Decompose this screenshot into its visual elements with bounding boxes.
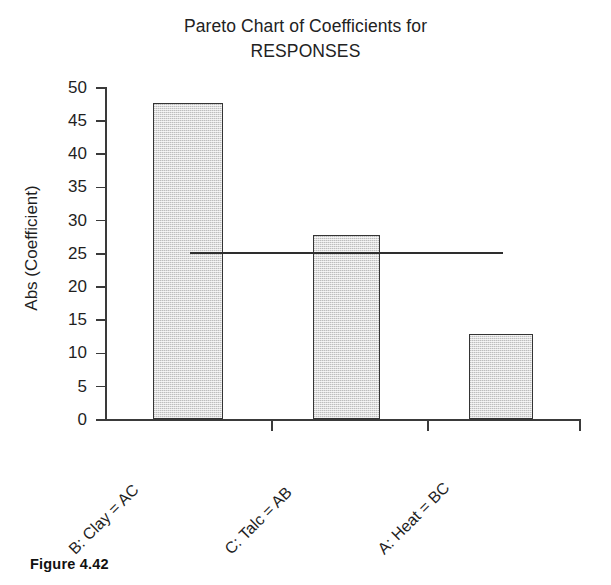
reference-threshold-line [190, 252, 503, 254]
figure-caption: Figure 4.42 [30, 556, 109, 572]
x-tick-end [579, 419, 581, 431]
y-tick-label-40: 40 [68, 144, 87, 164]
y-tick-10: 10 [96, 353, 106, 355]
y-tick-label-0: 0 [78, 410, 87, 430]
y-tick-5: 5 [96, 386, 106, 388]
bar-talc-ab [313, 235, 380, 419]
y-tick-35: 35 [96, 187, 106, 189]
y-axis-title: Abs (Coefficient) [18, 125, 46, 370]
x-tick-separator-2 [427, 419, 429, 431]
y-tick-label-20: 20 [68, 277, 87, 297]
y-tick-45: 45 [96, 120, 106, 122]
y-tick-15: 15 [96, 319, 106, 321]
y-tick-20: 20 [96, 286, 106, 288]
y-tick-0: 0 [96, 419, 106, 421]
plot-area: 50 45 40 35 30 25 20 15 10 5 0 [105, 87, 581, 419]
pareto-chart-figure: Pareto Chart of Coefficients for RESPONS… [0, 0, 611, 585]
y-tick-label-45: 45 [68, 111, 87, 131]
x-tick-separator-1 [271, 419, 273, 431]
bar-clay-ac [153, 103, 223, 419]
y-tick-label-30: 30 [68, 211, 87, 231]
x-category-label-heat-bc: A: Heat = BC [374, 479, 453, 558]
x-category-label-clay-ac: B: Clay = AC [65, 481, 142, 558]
chart-title: Pareto Chart of Coefficients for RESPONS… [0, 14, 611, 64]
y-tick-25: 25 [96, 253, 106, 255]
y-tick-50: 50 [96, 87, 106, 89]
y-tick-label-50: 50 [68, 78, 87, 98]
x-axis-spine [104, 419, 581, 421]
y-tick-30: 30 [96, 220, 106, 222]
y-tick-40: 40 [96, 153, 106, 155]
y-tick-label-25: 25 [68, 244, 87, 264]
y-tick-label-10: 10 [68, 343, 87, 363]
y-tick-label-35: 35 [68, 177, 87, 197]
bar-heat-bc [469, 334, 533, 419]
x-category-label-talc-ab: C: Talc = AB [221, 484, 295, 558]
y-axis-title-label: Abs (Coefficient) [22, 185, 42, 310]
y-tick-label-15: 15 [68, 310, 87, 330]
y-tick-label-5: 5 [78, 377, 87, 397]
